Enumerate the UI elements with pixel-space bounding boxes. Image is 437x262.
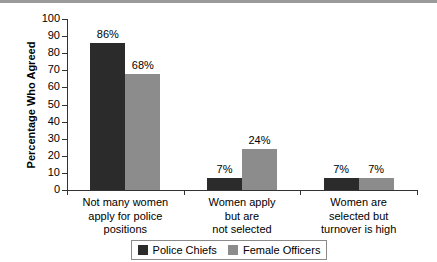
bar-value-label: 86% bbox=[84, 28, 131, 40]
x-axis-category-label: Women applybut arenot selected bbox=[184, 196, 301, 237]
x-axis-category-label: Not many womenapply for policepositions bbox=[67, 196, 184, 237]
category-label-line: not selected bbox=[184, 223, 301, 237]
category-label-line: Not many women bbox=[67, 196, 184, 210]
legend-label: Police Chiefs bbox=[153, 244, 217, 256]
chart-legend: Police Chiefs Female Officers bbox=[131, 240, 327, 260]
category-label-line: Women apply bbox=[184, 196, 301, 210]
light-gray-swatch-icon bbox=[228, 245, 238, 255]
bar-female-officers[interactable] bbox=[242, 149, 277, 190]
bar-police-chiefs[interactable] bbox=[324, 178, 359, 190]
category-label-line: positions bbox=[67, 223, 184, 237]
legend-item-female-officers[interactable]: Female Officers bbox=[228, 244, 320, 256]
dark-gray-swatch-icon bbox=[138, 245, 148, 255]
bar-value-label: 68% bbox=[119, 59, 166, 71]
bar-female-officers[interactable] bbox=[359, 178, 394, 190]
bar-value-label: 24% bbox=[236, 134, 283, 146]
category-label-line: Women are bbox=[300, 196, 417, 210]
legend-item-police-chiefs[interactable]: Police Chiefs bbox=[138, 244, 217, 256]
bar-female-officers[interactable] bbox=[125, 74, 160, 190]
legend-label: Female Officers bbox=[243, 244, 320, 256]
bar-chart-figure: Percentage Who Agreed 100908070605040302… bbox=[0, 0, 437, 262]
category-label-line: but are bbox=[184, 210, 301, 224]
category-label-line: turnover is high bbox=[300, 223, 417, 237]
category-label-line: apply for police bbox=[67, 210, 184, 224]
bar-value-label: 7% bbox=[201, 163, 248, 175]
bar-police-chiefs[interactable] bbox=[207, 178, 242, 190]
category-label-line: selected but bbox=[300, 210, 417, 224]
bar-value-label: 7% bbox=[353, 163, 400, 175]
x-axis-category-label: Women areselected butturnover is high bbox=[300, 196, 417, 237]
